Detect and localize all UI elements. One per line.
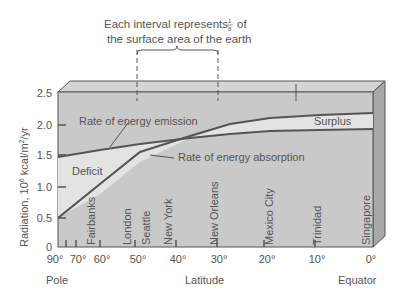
fraction-numerator: 1 [228,18,232,24]
svg-text:40°: 40° [170,253,187,265]
city-london: London [121,208,133,245]
y-tick-labels: 0 0.5 1.0 1.5 2.0 2.5 [37,87,52,253]
radiation-latitude-diagram: Each interval represents 1 8 of the surf… [0,0,402,299]
annotation-of: of [237,18,247,30]
svg-text:30°: 30° [211,253,228,265]
city-new-orleans: New Orleans [208,181,220,245]
city-fairbanks: Fairbanks [85,196,97,245]
annotation-line2: the surface area of the earth [107,33,251,45]
city-seattle: Seattle [140,211,152,245]
svg-text:70°: 70° [70,253,87,265]
svg-text:2.0: 2.0 [37,119,52,131]
equator-label: Equator [338,274,377,286]
svg-text:1.5: 1.5 [37,149,52,161]
city-new-york: New York [162,198,174,245]
fraction-denominator: 8 [228,26,232,32]
city-mexico-city: Mexico City [263,188,275,245]
svg-text:1.0: 1.0 [37,181,52,193]
svg-text:90°: 90° [47,253,64,265]
pole-label: Pole [46,274,68,286]
interval-brace [137,46,218,54]
svg-text:60°: 60° [94,253,111,265]
deficit-label: Deficit [72,165,103,177]
box-side-face [373,81,385,247]
emission-label: Rate of energy emission [79,115,198,127]
svg-text:0: 0 [46,241,52,253]
svg-text:50°: 50° [130,253,147,265]
svg-text:10°: 10° [309,253,326,265]
city-singapore: Singapore [360,195,372,245]
city-trinidad: Trinidad [311,206,323,245]
x-axis-label: Latitude [185,274,224,286]
y-axis-label: Radiation, 106 kcal/m2/yr [18,127,30,247]
svg-text:2.5: 2.5 [37,87,52,99]
x-tick-labels: 90° 70° 60° 50° 40° 30° 20° 10° 0° [47,253,377,265]
svg-text:20°: 20° [259,253,276,265]
surplus-label: Surplus [314,115,352,127]
box-top-face [58,81,385,92]
svg-text:0°: 0° [366,253,377,265]
absorption-label: Rate of energy absorption [178,151,305,163]
svg-text:0.5: 0.5 [37,212,52,224]
annotation-line1: Each interval represents [104,18,228,30]
